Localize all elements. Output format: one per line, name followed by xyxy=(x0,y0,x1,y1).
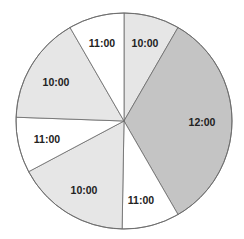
slice-label: 10:00 xyxy=(132,37,159,49)
slice-label: 11:00 xyxy=(34,133,60,145)
slice-label: 12:00 xyxy=(189,116,216,128)
slice-label: 10:00 xyxy=(71,184,98,196)
slice-label: 11:00 xyxy=(89,37,115,49)
slice-label: 10:00 xyxy=(43,76,70,88)
slice-label: 11:00 xyxy=(128,194,154,206)
pie-chart: 10:0012:0011:0010:0011:0010:0011:00 xyxy=(0,0,244,239)
